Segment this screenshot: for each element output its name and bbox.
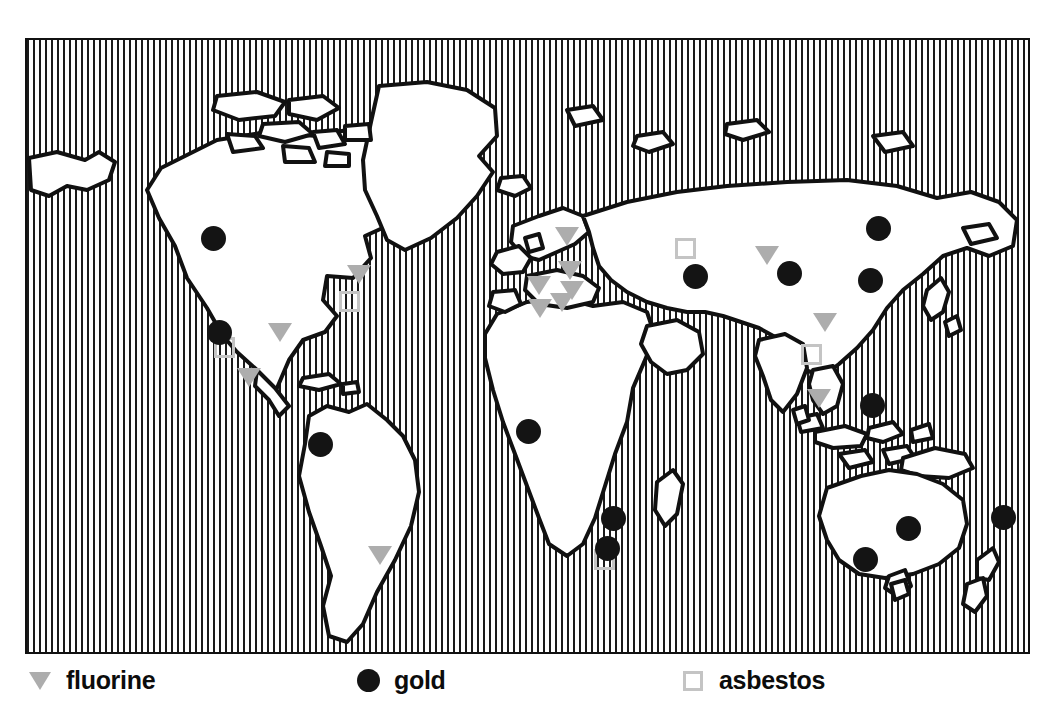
marker-fluorine[interactable]	[813, 313, 837, 332]
marker-gold[interactable]	[595, 536, 620, 561]
marker-fluorine[interactable]	[755, 246, 779, 265]
marker-fluorine[interactable]	[268, 323, 292, 342]
marker-fluorine[interactable]	[558, 261, 582, 280]
map-legend: fluorine gold asbestos	[25, 658, 1026, 703]
marker-fluorine[interactable]	[528, 299, 552, 318]
map-page: fluorine gold asbestos	[0, 0, 1054, 707]
marker-gold[interactable]	[777, 261, 802, 286]
marker-gold[interactable]	[853, 547, 878, 572]
marker-gold[interactable]	[201, 226, 226, 251]
world-map-frame	[25, 38, 1030, 654]
marker-fluorine[interactable]	[807, 389, 831, 408]
marker-gold[interactable]	[858, 268, 883, 293]
marker-asbestos[interactable]	[675, 238, 696, 259]
marker-gold[interactable]	[601, 506, 626, 531]
marker-gold[interactable]	[866, 216, 891, 241]
square-outline-icon	[680, 668, 706, 694]
marker-fluorine[interactable]	[347, 265, 371, 284]
marker-fluorine[interactable]	[527, 276, 551, 295]
marker-gold[interactable]	[683, 264, 708, 289]
marker-fluorine[interactable]	[550, 293, 574, 312]
marker-asbestos[interactable]	[339, 291, 360, 312]
marker-gold[interactable]	[516, 419, 541, 444]
marker-gold[interactable]	[860, 393, 885, 418]
marker-asbestos[interactable]	[801, 344, 822, 365]
triangle-down-icon	[27, 668, 53, 694]
marker-fluorine[interactable]	[237, 368, 261, 387]
legend-item-gold[interactable]: gold	[355, 658, 446, 703]
marker-fluorine[interactable]	[555, 227, 579, 246]
legend-label-gold: gold	[394, 666, 446, 695]
marker-fluorine[interactable]	[368, 546, 392, 565]
legend-item-asbestos[interactable]: asbestos	[680, 658, 825, 703]
legend-label-asbestos: asbestos	[719, 666, 825, 695]
marker-gold[interactable]	[991, 505, 1016, 530]
legend-label-fluorine: fluorine	[66, 666, 155, 695]
legend-item-fluorine[interactable]: fluorine	[27, 658, 155, 703]
circle-filled-icon	[355, 668, 381, 694]
marker-gold[interactable]	[308, 432, 333, 457]
marker-gold[interactable]	[207, 320, 232, 345]
marker-gold[interactable]	[896, 516, 921, 541]
